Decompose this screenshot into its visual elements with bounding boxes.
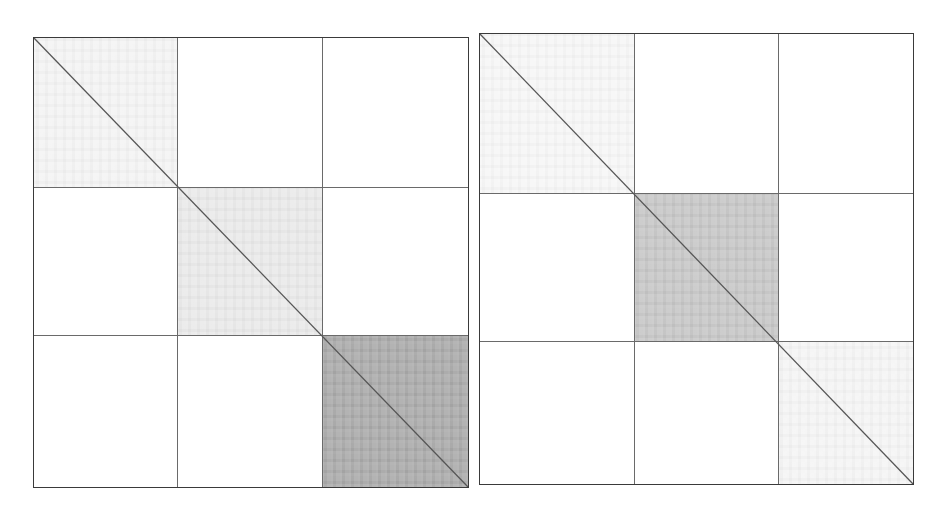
right-matrix-panel (479, 33, 914, 485)
left-matrix-panel (33, 37, 469, 488)
diagonal-line (34, 38, 468, 487)
diagonal-line (480, 34, 913, 484)
